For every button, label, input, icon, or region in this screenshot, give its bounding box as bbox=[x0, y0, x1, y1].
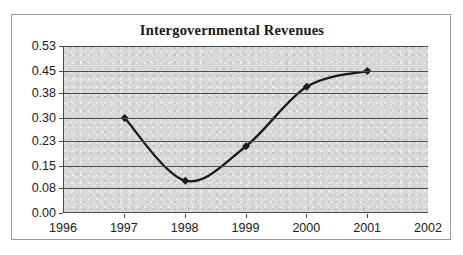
y-axis-tick-label: 0.38 bbox=[12, 86, 56, 100]
x-axis-tick-label: 1997 bbox=[110, 221, 138, 235]
y-axis-tick-label: 0.00 bbox=[12, 206, 56, 220]
y-axis-tick-mark bbox=[59, 71, 63, 72]
y-axis-tick-mark bbox=[59, 46, 63, 47]
plot-area bbox=[63, 46, 428, 213]
y-axis-tick-mark bbox=[59, 118, 63, 119]
x-axis-tick-mark bbox=[306, 214, 307, 218]
x-axis-tick-mark bbox=[185, 214, 186, 218]
y-axis-tick-label: 0.53 bbox=[12, 39, 56, 53]
x-axis-tick-label: 1996 bbox=[49, 221, 77, 235]
gridline-y bbox=[64, 118, 428, 119]
y-axis-tick-mark bbox=[59, 166, 63, 167]
x-axis-tick-label: 2002 bbox=[414, 221, 442, 235]
chart-title: Intergovernmental Revenues bbox=[12, 22, 452, 39]
y-axis-tick-label: 0.45 bbox=[12, 64, 56, 78]
x-axis-tick-label: 2000 bbox=[292, 221, 320, 235]
chart-figure: Intergovernmental Revenues 0.000.080.150… bbox=[11, 14, 451, 240]
gridline-y bbox=[64, 71, 428, 72]
series-line bbox=[125, 71, 368, 181]
x-axis-tick-mark bbox=[367, 214, 368, 218]
gridline-y bbox=[64, 166, 428, 167]
gridline-y bbox=[64, 93, 428, 94]
x-axis-tick-mark bbox=[124, 214, 125, 218]
x-axis-tick-mark bbox=[246, 214, 247, 218]
x-axis-tick-label: 1998 bbox=[171, 221, 199, 235]
gridline-y bbox=[64, 188, 428, 189]
data-point-marker bbox=[181, 177, 189, 185]
x-axis-tick-label: 2001 bbox=[353, 221, 381, 235]
y-axis-tick-mark bbox=[59, 213, 63, 214]
y-axis-tick-mark bbox=[59, 141, 63, 142]
y-axis-tick-label: 0.23 bbox=[12, 134, 56, 148]
gridline-y bbox=[64, 46, 428, 47]
y-axis-tick-mark bbox=[59, 93, 63, 94]
y-axis-tick-label: 0.08 bbox=[12, 181, 56, 195]
x-axis-tick-label: 1999 bbox=[232, 221, 260, 235]
y-axis-tick-label: 0.15 bbox=[12, 159, 56, 173]
gridline-y bbox=[64, 141, 428, 142]
y-axis-tick-mark bbox=[59, 188, 63, 189]
y-axis-tick-label: 0.30 bbox=[12, 111, 56, 125]
